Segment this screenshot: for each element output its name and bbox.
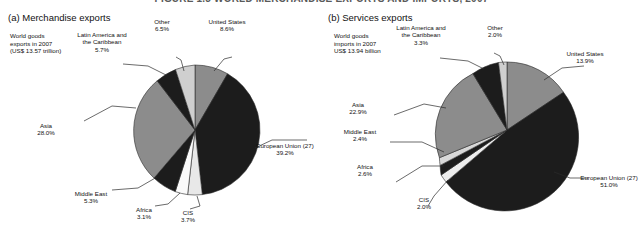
label-middle-east-b-name: Middle East [344, 128, 376, 135]
label-middle-east-b-value: 2.4% [334, 135, 386, 142]
label-cis-b-name: CIS [419, 196, 429, 203]
label-european-union-a: European Union (27) 39.2% [252, 142, 318, 157]
leader-asia [84, 106, 136, 121]
leader-africa [155, 193, 180, 206]
label-other-b-name: Other [487, 24, 502, 31]
pie-slices-services [435, 62, 578, 211]
label-united-states-b-value: 13.9% [554, 57, 616, 64]
label-middle-east-a: Middle East 5.3% [66, 190, 116, 205]
label-other-b-value: 2.0% [474, 31, 516, 38]
pie-chart-merchandise [0, 0, 321, 226]
leader-middle-east [112, 177, 157, 190]
label-latin-america-b-value: 3.3% [382, 39, 460, 46]
label-cis-a: CIS 3.7% [174, 209, 202, 224]
label-latin-america-b-line1: Latin America and [396, 24, 446, 31]
label-united-states-a-name: United States [208, 18, 245, 25]
label-asia-a-name: Asia [40, 122, 52, 129]
label-cis-b-value: 2.0% [410, 203, 438, 210]
label-middle-east-a-name: Middle East [75, 190, 107, 197]
label-latin-america-a-line1: Latin America and [77, 31, 127, 38]
label-other-b: Other 2.0% [474, 24, 516, 39]
label-cis-a-name: CIS [183, 209, 193, 216]
label-latin-america-a-line2: the Caribbean [64, 38, 140, 45]
leader-africa [396, 166, 444, 182]
label-united-states-a: United States 8.6% [196, 18, 258, 33]
label-africa-b: Africa 2.6% [348, 163, 382, 178]
panel-services-exports: (b) Services exports World goods imports… [322, 0, 643, 226]
label-united-states-b-name: United States [566, 50, 603, 57]
panel-merchandise-exports: (a) Merchandise exports World goods expo… [0, 0, 321, 226]
leader-latin-america [123, 64, 166, 75]
label-asia-b: Asia 22.9% [336, 101, 380, 116]
label-asia-a: Asia 28.0% [24, 122, 68, 137]
label-latin-america-b: Latin America and the Caribbean 3.3% [382, 24, 460, 46]
label-other-a-name: Other [154, 18, 169, 25]
label-middle-east-a-value: 5.3% [66, 197, 116, 204]
label-united-states-a-value: 8.6% [196, 25, 258, 32]
label-asia-b-name: Asia [352, 101, 364, 108]
label-asia-a-value: 28.0% [24, 129, 68, 136]
leader-asia [394, 104, 446, 115]
pie-slices-merchandise [134, 65, 260, 195]
label-africa-b-value: 2.6% [348, 170, 382, 177]
label-africa-b-name: Africa [357, 163, 373, 170]
figure-container: FIGURE 1.3 WORLD MERCHANDISE EXPORTS AND… [0, 0, 643, 226]
label-latin-america-a-value: 5.7% [64, 46, 140, 53]
label-european-union-b-name: European Union (27) [580, 174, 637, 181]
label-european-union-a-name: European Union (27) [256, 142, 313, 149]
label-middle-east-b: Middle East 2.4% [334, 128, 386, 143]
leader-cis [190, 196, 200, 209]
label-cis-a-value: 3.7% [174, 216, 202, 223]
label-cis-b: CIS 2.0% [410, 196, 438, 211]
label-latin-america-b-line2: the Caribbean [382, 31, 460, 38]
label-africa-a-name: Africa [136, 206, 152, 213]
label-other-a: Other 6.5% [140, 18, 184, 33]
label-other-a-value: 6.5% [140, 25, 184, 32]
label-africa-a-value: 3.1% [128, 213, 160, 220]
leader-latin-america [440, 58, 484, 69]
label-africa-a: Africa 3.1% [128, 206, 160, 221]
label-asia-b-value: 22.9% [336, 108, 380, 115]
label-european-union-a-value: 39.2% [252, 149, 318, 156]
label-european-union-b-value: 51.0% [576, 181, 642, 188]
label-european-union-b: European Union (27) 51.0% [576, 174, 642, 189]
label-united-states-b: United States 13.9% [554, 50, 616, 65]
label-latin-america-a: Latin America and the Caribbean 5.7% [64, 31, 140, 53]
